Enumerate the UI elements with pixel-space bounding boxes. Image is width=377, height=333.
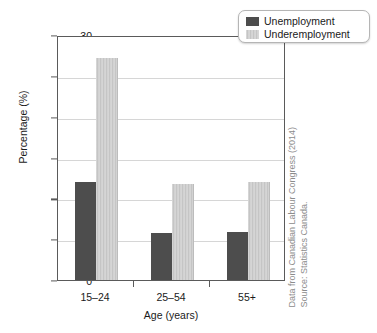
bar-underemployment-2554: [172, 184, 194, 280]
legend-label-underemployment: Underemployment: [264, 29, 350, 40]
bar-underemployment-55+: [248, 182, 270, 280]
bar-unemployment-1524: [75, 182, 97, 280]
y-axis-title: Percentage (%): [17, 37, 29, 217]
plot-area: [57, 36, 285, 281]
bar-chart-figure: Percentage (%) 051015202530 15–2425–5455…: [0, 0, 377, 333]
x-axis-tick-mark: [133, 281, 134, 287]
gridline: [58, 160, 284, 161]
legend-label-unemployment: Unemployment: [264, 16, 335, 27]
x-axis-tick-label: 55+: [207, 291, 287, 303]
legend-item-unemployment[interactable]: Unemployment: [246, 15, 364, 28]
source-note-line-1: Data from Canadian Labour Congress (2014…: [287, 88, 299, 308]
legend-item-underemployment[interactable]: Underemployment: [246, 28, 364, 41]
x-axis-tick-label: 25–54: [131, 291, 211, 303]
x-axis-title: Age (years): [57, 309, 285, 321]
source-note-line-2: Source: Statistics Canada.: [298, 88, 310, 308]
gridline: [58, 78, 284, 79]
gridline: [58, 119, 284, 120]
legend-swatch-icon-unemployment: [246, 17, 259, 26]
chart-legend[interactable]: Unemployment Underemployment: [238, 10, 370, 43]
legend-swatch-icon-underemployment: [246, 30, 259, 39]
source-attribution-note: Data from Canadian Labour Congress (2014…: [287, 88, 310, 308]
x-axis-tick-mark: [209, 281, 210, 287]
bar-unemployment-55+: [227, 232, 249, 280]
bar-unemployment-2554: [151, 233, 173, 280]
x-axis-tick-label: 15–24: [55, 291, 135, 303]
bar-underemployment-1524: [96, 58, 118, 280]
